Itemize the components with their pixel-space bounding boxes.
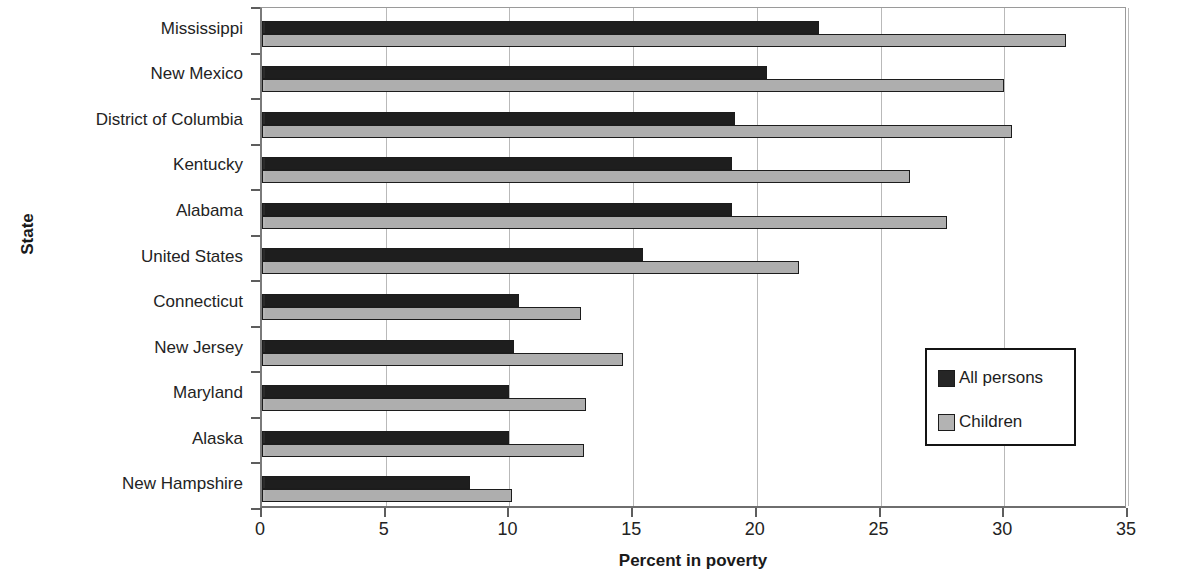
bar [262, 157, 732, 170]
y-tick [251, 371, 260, 373]
bar-group [262, 99, 1125, 145]
x-axis-label: 20 [725, 519, 785, 540]
y-tick [251, 462, 260, 464]
y-tick [251, 417, 260, 419]
x-axis-label: 30 [972, 519, 1032, 540]
y-axis-label: New Mexico [150, 64, 243, 84]
bar-group [262, 190, 1125, 236]
y-tick [251, 235, 260, 237]
legend-swatch-icon [938, 370, 955, 387]
x-axis-label: 0 [230, 519, 290, 540]
bar [262, 294, 519, 307]
bar [262, 261, 799, 274]
bar [262, 66, 767, 79]
bar-group [262, 281, 1125, 327]
chart-legend: All personsChildren [925, 348, 1076, 446]
bar-group [262, 145, 1125, 191]
y-tick [251, 508, 260, 510]
legend-entry: All persons [938, 367, 1043, 389]
gridline-35 [1128, 8, 1129, 506]
y-axis-label: Alaska [192, 429, 243, 449]
legend-entry: Children [938, 411, 1022, 433]
y-axis-label: Mississippi [161, 19, 243, 39]
bar [262, 476, 470, 489]
x-tick [1002, 508, 1004, 517]
bar [262, 170, 910, 183]
bar [262, 125, 1012, 138]
legend-label: All persons [959, 368, 1043, 388]
x-tick [755, 508, 757, 517]
bar [262, 203, 732, 216]
bar [262, 34, 1066, 47]
poverty-bar-chart: State MississippiNew MexicoDistrict of C… [0, 0, 1189, 587]
x-axis-label: 10 [477, 519, 537, 540]
y-tick [251, 144, 260, 146]
x-tick [384, 508, 386, 517]
x-axis-label: 5 [354, 519, 414, 540]
y-tick [251, 53, 260, 55]
x-axis-label: 35 [1096, 519, 1156, 540]
x-tick [879, 508, 881, 517]
y-axis-label: United States [141, 247, 243, 267]
y-axis-label: Alabama [176, 201, 243, 221]
y-tick [251, 280, 260, 282]
y-axis-label: New Jersey [154, 338, 243, 358]
y-axis-label: New Hampshire [122, 474, 243, 494]
bar [262, 307, 581, 320]
bar [262, 431, 509, 444]
bar-group [262, 463, 1125, 509]
y-axis-label: District of Columbia [96, 110, 243, 130]
bar [262, 353, 623, 366]
bar [262, 444, 584, 457]
bar-group [262, 8, 1125, 54]
y-tick [251, 189, 260, 191]
bar [262, 216, 947, 229]
x-tick [631, 508, 633, 517]
bar [262, 398, 586, 411]
x-axis-title: Percent in poverty [260, 550, 1126, 572]
bar [262, 21, 819, 34]
x-tick [260, 508, 262, 517]
bar [262, 489, 512, 502]
bar [262, 112, 735, 125]
y-axis-title: State [16, 184, 40, 284]
bar [262, 248, 643, 261]
x-tick [507, 508, 509, 517]
bar-group [262, 54, 1125, 100]
y-tick [251, 7, 260, 9]
bar [262, 340, 514, 353]
y-axis-label: Kentucky [173, 155, 243, 175]
x-tick [1126, 508, 1128, 517]
bar [262, 385, 509, 398]
y-axis-label: Maryland [173, 383, 243, 403]
y-tick [251, 326, 260, 328]
x-axis-label: 15 [601, 519, 661, 540]
legend-label: Children [959, 412, 1022, 432]
y-axis-label: Connecticut [153, 292, 243, 312]
x-axis-label: 25 [849, 519, 909, 540]
bar-group [262, 236, 1125, 282]
bar [262, 79, 1004, 92]
legend-swatch-icon [938, 414, 955, 431]
y-tick [251, 98, 260, 100]
